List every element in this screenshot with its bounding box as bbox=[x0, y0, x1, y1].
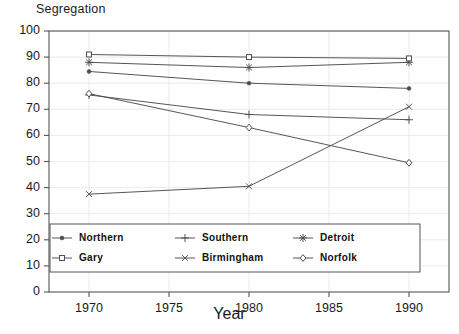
marker-asterisk bbox=[85, 58, 93, 66]
segregation-line-chart: Segregation 0102030405060708090100 19701… bbox=[0, 0, 459, 334]
marker-dot bbox=[247, 81, 251, 85]
marker-diamond bbox=[86, 90, 92, 97]
marker-diamond bbox=[246, 124, 252, 131]
y-tick-label: 60 bbox=[6, 127, 40, 141]
marker-plus bbox=[245, 111, 253, 119]
y-tick-label: 40 bbox=[6, 180, 40, 194]
marker-asterisk bbox=[299, 234, 307, 242]
marker-filled-dot bbox=[87, 70, 91, 74]
y-tick-label: 100 bbox=[6, 23, 40, 37]
y-tick-label: 0 bbox=[6, 284, 40, 298]
legend-label-northern[interactable]: Northern bbox=[79, 232, 124, 243]
marker-filled-dot bbox=[407, 87, 411, 91]
legend-label-gary[interactable]: Gary bbox=[79, 252, 103, 263]
marker-square bbox=[60, 256, 65, 261]
marker-square bbox=[407, 56, 412, 61]
y-tick-label: 10 bbox=[6, 258, 40, 272]
marker-square bbox=[247, 55, 252, 60]
marker-diamond bbox=[86, 90, 92, 97]
y-tick-label: 20 bbox=[6, 232, 40, 246]
plot-area bbox=[0, 0, 459, 334]
legend-label-birmingham[interactable]: Birmingham bbox=[202, 252, 263, 263]
legend-label-southern[interactable]: Southern bbox=[202, 232, 248, 243]
x-axis-title: Year bbox=[0, 305, 459, 323]
marker-square bbox=[407, 56, 412, 61]
marker-plus bbox=[405, 116, 413, 124]
marker-diamond bbox=[406, 159, 412, 166]
y-tick-label: 90 bbox=[6, 49, 40, 63]
marker-dot bbox=[60, 236, 64, 240]
marker-diamond bbox=[406, 159, 412, 166]
y-tick-label: 80 bbox=[6, 75, 40, 89]
marker-filled-dot bbox=[60, 236, 64, 240]
y-tick-label: 30 bbox=[6, 206, 40, 220]
marker-filled-dot bbox=[247, 81, 251, 85]
legend-label-norfolk[interactable]: Norfolk bbox=[320, 252, 357, 263]
y-tick-label: 50 bbox=[6, 154, 40, 168]
legend-label-detroit[interactable]: Detroit bbox=[320, 232, 354, 243]
marker-square bbox=[60, 256, 65, 261]
marker-dot bbox=[87, 70, 91, 74]
marker-diamond bbox=[246, 124, 252, 131]
marker-square bbox=[87, 52, 92, 57]
chart-title: Segregation bbox=[36, 2, 106, 16]
y-tick-label: 70 bbox=[6, 101, 40, 115]
marker-asterisk bbox=[245, 64, 253, 72]
marker-square bbox=[247, 55, 252, 60]
marker-dot bbox=[407, 87, 411, 91]
marker-square bbox=[87, 52, 92, 57]
